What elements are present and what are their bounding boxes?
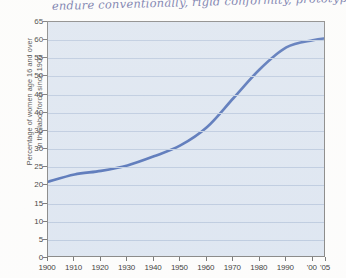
plot-area <box>47 21 325 257</box>
x-tick-mark <box>73 257 74 261</box>
x-tick-mark <box>206 257 207 261</box>
y-tick-label: 30 <box>34 144 43 153</box>
y-tick-label: 40 <box>34 107 43 116</box>
x-tick-label: 1920 <box>91 263 108 272</box>
gridline <box>48 185 324 186</box>
gridline <box>48 113 324 114</box>
gridline <box>48 204 324 205</box>
y-tick-label: 55 <box>34 53 43 62</box>
x-tick-label: 1930 <box>118 263 135 272</box>
x-tick-mark <box>179 257 180 261</box>
gridline <box>48 131 324 132</box>
x-tick-mark <box>325 257 326 261</box>
y-tick-label: 60 <box>34 35 43 44</box>
x-tick-label: 1970 <box>224 263 241 272</box>
gridline <box>48 95 324 96</box>
x-tick-mark <box>259 257 260 261</box>
x-tick-label: 1900 <box>39 263 56 272</box>
y-tick-label: 15 <box>34 198 43 207</box>
y-tick-label: 45 <box>34 89 43 98</box>
gridline <box>48 149 324 150</box>
x-tick-label: 1950 <box>171 263 188 272</box>
gridline <box>48 40 324 41</box>
y-tick-label: 20 <box>34 180 43 189</box>
y-tick-label: 25 <box>34 162 43 171</box>
x-tick-mark <box>100 257 101 261</box>
y-tick-label: 50 <box>34 71 43 80</box>
x-tick-label: '05 <box>320 263 330 272</box>
x-tick-mark <box>126 257 127 261</box>
x-tick-label: 1940 <box>144 263 161 272</box>
gridline <box>48 240 324 241</box>
x-tick-label: '00 <box>307 263 317 272</box>
gridline <box>48 76 324 77</box>
x-tick-mark <box>153 257 154 261</box>
x-tick-mark <box>47 257 48 261</box>
x-tick-mark <box>232 257 233 261</box>
x-axis-labels: 1900191019201930194019501960197019801990… <box>0 257 346 278</box>
x-tick-label: 1910 <box>65 263 82 272</box>
y-tick-label: 65 <box>34 17 43 26</box>
y-axis-labels: 05101520253035404550556065 <box>0 0 46 278</box>
y-tick-label: 10 <box>34 216 43 225</box>
handwritten-annotation: endure conventionally, rigid conformity,… <box>52 0 345 21</box>
x-tick-label: 1990 <box>277 263 294 272</box>
chart-page: endure conventionally, rigid conformity,… <box>0 0 346 278</box>
gridline <box>48 167 324 168</box>
y-tick-label: 35 <box>34 125 43 134</box>
x-tick-mark <box>312 257 313 261</box>
x-tick-mark <box>285 257 286 261</box>
x-tick-label: 1960 <box>197 263 214 272</box>
gridline <box>48 58 324 59</box>
x-tick-label: 1980 <box>250 263 267 272</box>
gridline <box>48 222 324 223</box>
